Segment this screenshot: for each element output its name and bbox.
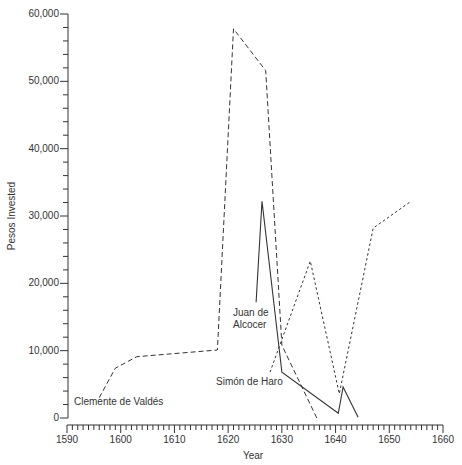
y-axis-title: Pesos Invested (6, 182, 17, 250)
y-tick-label: 50,000 (28, 75, 59, 86)
x-tick-label: 1610 (163, 434, 186, 445)
series-group (99, 29, 410, 418)
line-chart: 010,00020,00030,00040,00050,00060,000 15… (0, 0, 462, 465)
x-tick-label: 1600 (110, 434, 133, 445)
y-tick-label: 60,000 (28, 8, 59, 19)
annotation-juan-de-alcocer-line2: Alcocer (233, 319, 267, 330)
x-tick-label: 1630 (271, 434, 294, 445)
x-tick-label: 1650 (378, 434, 401, 445)
y-tick-label: 10,000 (28, 345, 59, 356)
x-tick-label: 1590 (56, 434, 79, 445)
series-clemente-de-vald-s (99, 29, 317, 418)
x-tick-label: 1620 (217, 434, 240, 445)
annotation-simon-de-haro: Simón de Haro (216, 376, 283, 387)
y-tick-label: 0 (53, 412, 59, 423)
x-tick-label: 1640 (324, 434, 347, 445)
annotation-clemente-de-valdes: Clemente de Valdés (74, 396, 163, 407)
y-axis: 010,00020,00030,00040,00050,00060,000 (28, 8, 68, 423)
y-tick-label: 30,000 (28, 210, 59, 221)
x-tick-label: 1660 (432, 434, 455, 445)
y-tick-label: 20,000 (28, 277, 59, 288)
x-axis: 15901600161016201630164016501660 (56, 425, 455, 445)
y-tick-label: 40,000 (28, 143, 59, 154)
x-axis-title: Year (243, 450, 264, 461)
annotation-juan-de-alcocer-line1: Juan de (233, 307, 269, 318)
